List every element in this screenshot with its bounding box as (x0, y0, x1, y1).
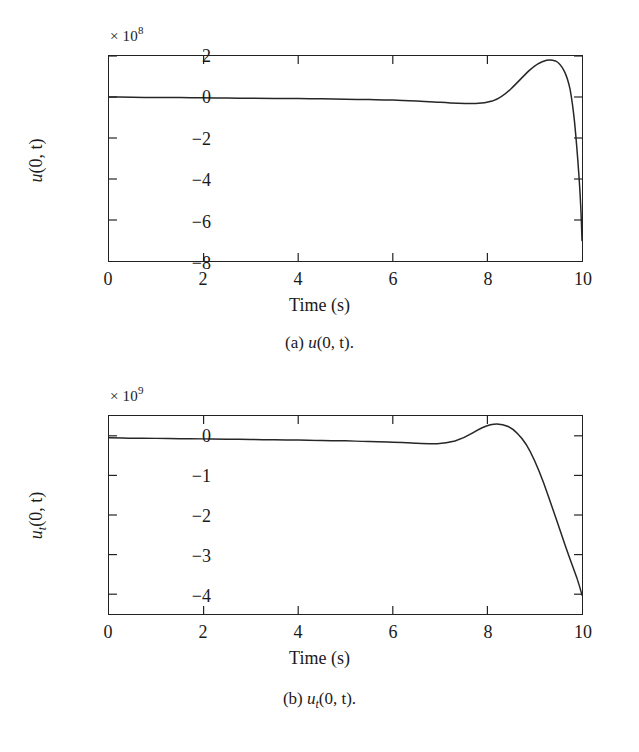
y-tick-b-2: −2 (171, 507, 211, 525)
y-axis-title-a-var: u (26, 174, 46, 183)
y-tick-b-0: 0 (171, 427, 211, 445)
y-axis-title-b-rest: (0, t) (26, 492, 46, 527)
x-tick-a-3: 6 (389, 270, 398, 288)
y-tick-a-3: −4 (171, 171, 211, 189)
y-axis-multiplier-b: × 109 (110, 386, 144, 406)
caption-a-index: (a) (285, 333, 304, 352)
x-tick-a-2: 4 (294, 270, 303, 288)
y-tick-a-1: 0 (171, 88, 211, 106)
x-tick-a-5: 10 (574, 270, 592, 288)
caption-b-index: (b) (283, 689, 303, 708)
panel-a: × 108 (0, 0, 639, 372)
x-tick-a-1: 2 (199, 270, 208, 288)
plot-axes-b: 0 −1 −2 −3 −4 (108, 415, 583, 615)
caption-b-rest: (0, t). (319, 689, 356, 708)
y-axis-multiplier-a: × 108 (110, 26, 144, 46)
x-axis-title-a: Time (s) (0, 295, 639, 316)
y-axis-title-a-rest: (0, t) (26, 139, 46, 174)
y-tick-b-4: −4 (171, 587, 211, 605)
caption-b: (b) ut(0, t). (0, 689, 639, 709)
caption-a-rest: (0, t). (317, 333, 354, 352)
x-ticks-b (204, 416, 488, 614)
x-tick-b-4: 8 (484, 623, 493, 641)
caption-a-var: u (308, 333, 317, 352)
y-axis-title-b: ut(0, t) (26, 471, 47, 561)
panel-b: × 109 (0, 360, 639, 752)
x-tick-b-2: 4 (294, 623, 303, 641)
plot-axes-a: 2 0 −2 −4 −6 −8 (108, 55, 583, 262)
x-axis-title-b: Time (s) (0, 648, 639, 669)
y-tick-a-4: −6 (171, 213, 211, 231)
multiplier-text-a: × 10 (110, 28, 138, 44)
x-ticks-a (204, 56, 488, 261)
y-tick-a-2: −2 (171, 130, 211, 148)
multiplier-power-b: 9 (138, 384, 144, 396)
x-tick-a-0: 0 (104, 270, 113, 288)
multiplier-power-a: 8 (138, 24, 144, 36)
y-axis-title-b-var: u (26, 530, 46, 539)
y-axis-title-b-subscript: t (35, 527, 49, 530)
y-axis-title-a: u(0, t) (26, 116, 47, 206)
figure-container: × 108 (0, 0, 639, 752)
multiplier-text-b: × 10 (110, 388, 138, 404)
x-tick-b-5: 10 (574, 623, 592, 641)
x-tick-b-1: 2 (199, 623, 208, 641)
y-tick-a-0: 2 (171, 47, 211, 65)
x-tick-a-4: 8 (484, 270, 493, 288)
y-tick-b-1: −1 (171, 467, 211, 485)
y-tick-b-3: −3 (171, 547, 211, 565)
x-tick-b-3: 6 (389, 623, 398, 641)
caption-a: (a) u(0, t). (0, 333, 639, 353)
x-tick-b-0: 0 (104, 623, 113, 641)
